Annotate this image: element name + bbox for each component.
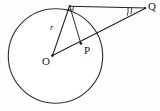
vertex-dot-A <box>69 5 71 7</box>
angle-arc-marker-at-Q <box>131 7 132 14</box>
geometry-figure: O P Q r <box>0 0 160 111</box>
label-point-p: P <box>84 45 90 56</box>
vertex-dot-Q <box>144 7 146 9</box>
label-radius-r: r <box>50 23 54 32</box>
geometry-canvas <box>0 0 160 111</box>
vertex-dot-O <box>51 54 54 57</box>
label-point-q: Q <box>148 1 156 12</box>
angle-arc-marker-at-Q-outer <box>127 7 128 16</box>
segment-AQ <box>70 6 146 8</box>
vertex-dot-P <box>80 42 83 45</box>
label-point-o: O <box>42 56 50 67</box>
